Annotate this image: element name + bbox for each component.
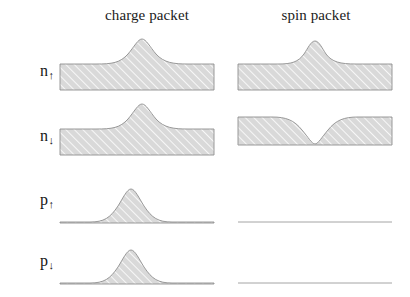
panel-n-up-spin-packet bbox=[238, 34, 392, 90]
area-path bbox=[60, 39, 214, 90]
plot-p-down-spin bbox=[238, 243, 392, 287]
plot-n-up-charge bbox=[60, 34, 214, 90]
panel-n-up-charge-packet bbox=[60, 34, 214, 90]
row-label-n-down-symbol: n bbox=[40, 127, 48, 144]
plot-n-down-charge bbox=[60, 99, 214, 155]
row-label-n-up: n↑ bbox=[12, 62, 54, 81]
spin-charge-packet-figure: charge packet spin packet n↑ n↓ p↑ p↓ bbox=[0, 0, 410, 297]
panel-p-up-spin-packet bbox=[238, 182, 392, 226]
column-title-charge-packet: charge packet bbox=[80, 7, 214, 24]
panel-n-down-charge-packet bbox=[60, 99, 214, 155]
row-label-p-down: p↓ bbox=[12, 252, 54, 271]
plot-p-up-spin bbox=[238, 182, 392, 226]
area-path bbox=[60, 104, 214, 155]
plot-n-down-spin bbox=[238, 111, 392, 155]
area-path bbox=[238, 117, 392, 145]
area-path bbox=[238, 41, 392, 90]
row-label-n-down: n↓ bbox=[12, 127, 54, 146]
area-path bbox=[60, 250, 214, 284]
row-label-n-down-subscript: ↓ bbox=[49, 134, 55, 146]
plot-p-up-charge bbox=[60, 182, 214, 226]
panel-p-down-charge-packet bbox=[60, 243, 214, 287]
row-label-p-down-subscript: ↓ bbox=[49, 259, 55, 271]
row-label-p-down-symbol: p bbox=[40, 252, 48, 269]
column-title-spin-packet: spin packet bbox=[250, 7, 382, 24]
row-label-p-up-subscript: ↑ bbox=[49, 198, 55, 210]
plot-p-down-charge bbox=[60, 243, 214, 287]
row-label-n-up-symbol: n bbox=[40, 62, 48, 79]
panel-p-down-spin-packet bbox=[238, 243, 392, 287]
row-label-p-up-symbol: p bbox=[40, 191, 48, 208]
panel-n-down-spin-packet bbox=[238, 111, 392, 155]
row-label-p-up: p↑ bbox=[12, 191, 54, 210]
area-path bbox=[60, 189, 214, 223]
row-label-n-up-subscript: ↑ bbox=[49, 69, 55, 81]
panel-p-up-charge-packet bbox=[60, 182, 214, 226]
plot-n-up-spin bbox=[238, 34, 392, 90]
